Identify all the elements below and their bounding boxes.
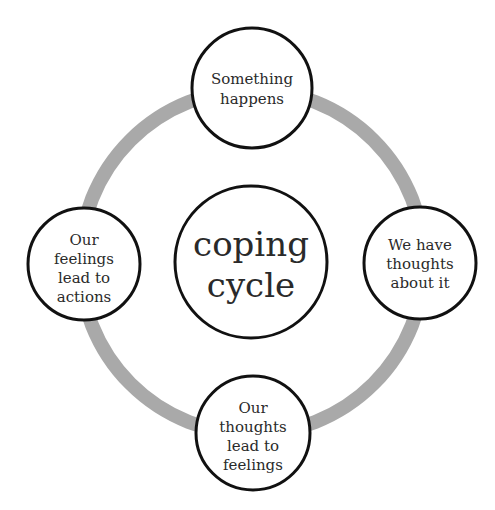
center-line-1: coping <box>193 224 309 264</box>
node-left-line-1: Our <box>69 231 99 249</box>
node-bottom-line-3: lead to <box>227 437 279 455</box>
node-something-happens: Something happens <box>192 28 312 148</box>
node-we-have-thoughts: We have thoughts about it <box>364 207 476 319</box>
node-bottom-line-4: feelings <box>223 456 283 474</box>
node-left-line-4: actions <box>57 288 112 306</box>
center-node: coping cycle <box>175 186 327 338</box>
coping-cycle-diagram: coping cycle Something happens We have t… <box>0 0 495 510</box>
node-left-line-3: lead to <box>58 269 110 287</box>
node-right-line-3: about it <box>391 274 450 292</box>
node-top-line-1: Something <box>211 70 294 88</box>
node-top-line-2: happens <box>220 90 284 108</box>
node-right-line-2: thoughts <box>386 255 453 273</box>
center-line-2: cycle <box>207 265 295 305</box>
diagram-canvas: coping cycle Something happens We have t… <box>0 0 495 510</box>
node-feelings-lead-to-actions: Our feelings lead to actions <box>28 208 140 320</box>
node-right-line-1: We have <box>388 236 452 254</box>
node-bottom-line-2: thoughts <box>219 418 286 436</box>
node-bottom-line-1: Our <box>238 399 268 417</box>
node-thoughts-lead-to-feelings: Our thoughts lead to feelings <box>196 376 310 490</box>
node-left-line-2: feelings <box>54 250 114 268</box>
